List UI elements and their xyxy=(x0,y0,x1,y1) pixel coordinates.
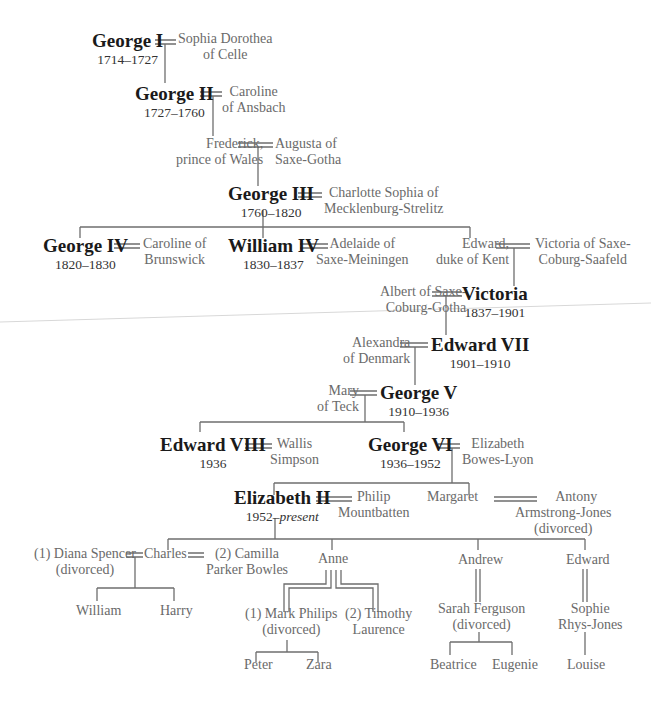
monarch-george-ii: George II 1727–1760 xyxy=(135,83,214,120)
person-william: William xyxy=(76,603,121,619)
spouse-sophia-dorothea: Sophia Dorothea of Celle xyxy=(178,31,272,63)
monarch-george-vi: George VI 1936–1952 xyxy=(368,434,453,471)
spouse-camilla-parker-bowles: (2) Camilla Parker Bowles xyxy=(206,546,288,578)
spouse-antony-armstrong-jones: Antony Armstrong-Jones (divorced) xyxy=(515,489,611,537)
spouse-caroline-brunswick: Caroline of Brunswick xyxy=(143,236,206,268)
spouse-timothy-laurence: (2) Timothy Laurence xyxy=(345,606,412,638)
person-charles: Charles xyxy=(144,546,187,562)
monarch-george-iii: George III 1760–1820 xyxy=(228,183,314,220)
person-harry: Harry xyxy=(160,603,193,619)
spouse-caroline-ansbach: Caroline of Ansbach xyxy=(222,84,285,116)
connector-lines xyxy=(0,0,651,704)
spouse-mark-philips: (1) Mark Philips (divorced) xyxy=(245,606,338,638)
monarch-edward-vii: Edward VII 1901–1910 xyxy=(431,334,529,371)
person-eugenie: Eugenie xyxy=(492,657,538,673)
spouse-diana-spencer: (1) Diana Spencer (divorced) xyxy=(34,546,136,578)
spouse-albert: Albert of Saxe- Coburg-Gotha xyxy=(380,284,466,316)
person-margaret: Margaret xyxy=(427,489,478,505)
spouse-charlotte: Charlotte Sophia of Mecklenburg-Strelitz xyxy=(324,185,444,217)
person-peter: Peter xyxy=(244,657,273,673)
spouse-alexandra: Alexandra of Denmark xyxy=(343,335,410,367)
person-louise: Louise xyxy=(567,657,605,673)
spouse-mary-of-teck: Mary of Teck xyxy=(317,383,359,415)
person-beatrice: Beatrice xyxy=(430,657,477,673)
reign: 1714–1727 xyxy=(92,52,163,68)
person-frederick: Frederick, prince of Wales xyxy=(176,136,263,168)
spouse-philip-mountbatten: Philip Mountbatten xyxy=(338,489,410,521)
spouse-victoria-saxe-coburg: Victoria of Saxe- Coburg-Saafeld xyxy=(535,236,631,268)
name: George I xyxy=(92,30,163,52)
monarch-william-iv: William IV 1830–1837 xyxy=(228,235,319,272)
spouse-sophie-rhys-jones: Sophie Rhys-Jones xyxy=(558,601,623,633)
monarch-george-i: George I 1714–1727 xyxy=(92,30,163,67)
monarch-victoria: Victoria 1837–1901 xyxy=(462,283,528,320)
monarch-edward-viii: Edward VIII 1936 xyxy=(160,434,266,471)
spouse-elizabeth-bowes-lyon: Elizabeth Bowes-Lyon xyxy=(462,436,534,468)
person-anne: Anne xyxy=(318,551,348,567)
spouse-adelaide: Adelaide of Saxe-Meiningen xyxy=(316,236,409,268)
spouse-augusta: Augusta of Saxe-Gotha xyxy=(275,136,341,168)
monarch-george-iv: George IV 1820–1830 xyxy=(43,235,128,272)
scan-artifact-line xyxy=(0,303,651,322)
person-zara: Zara xyxy=(306,657,332,673)
person-edward-duke-of-kent: Edward, duke of Kent xyxy=(436,236,509,268)
monarch-elizabeth-ii: Elizabeth II 1952–present xyxy=(234,487,331,524)
spouse-sarah-ferguson: Sarah Ferguson (divorced) xyxy=(438,601,525,633)
person-andrew: Andrew xyxy=(458,552,503,568)
monarch-george-v: George V 1910–1936 xyxy=(380,382,457,419)
spouse-wallis-simpson: Wallis Simpson xyxy=(270,436,319,468)
person-edward: Edward xyxy=(566,552,610,568)
family-tree-diagram: George I 1714–1727 Sophia Dorothea of Ce… xyxy=(0,0,651,704)
